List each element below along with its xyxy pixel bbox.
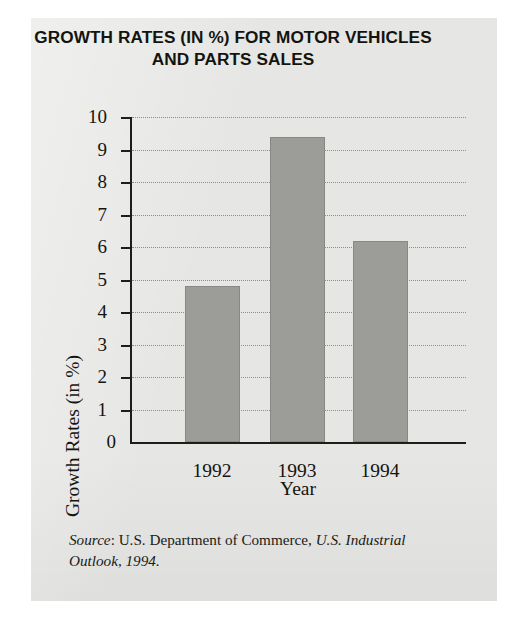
y-tick-label-9: 9 (98, 138, 108, 160)
y-tick-6: 6 (121, 247, 132, 249)
y-axis-title-wrapper: Growth Rates (in %) (66, 148, 92, 434)
y-tick-4: 4 (121, 312, 132, 314)
y-tick-3: 3 (121, 345, 132, 347)
chart-title-line-2: AND PARTS SALES (34, 48, 432, 70)
figure-root: GROWTH RATES (IN %) FOR MOTOR VEHICLES A… (0, 0, 524, 619)
y-tick-9: 9 (121, 150, 132, 152)
y-tick-label-7: 7 (98, 203, 108, 225)
x-axis-title: Year (130, 478, 466, 500)
y-tick-label-4: 4 (98, 301, 108, 323)
y-tick-7: 7 (121, 215, 132, 217)
y-tick-5: 5 (121, 280, 132, 282)
source-publisher: U.S. Department of Commerce, (119, 531, 316, 548)
gridline-10 (132, 117, 466, 119)
y-tick-label-5: 5 (98, 268, 108, 290)
source-note: Source: U.S. Department of Commerce, U.S… (69, 529, 447, 571)
plot-area: 10 9 8 7 6 5 4 3 2 1 0 (130, 117, 466, 442)
y-tick-label-3: 3 (98, 333, 108, 355)
y-tick-label-6: 6 (98, 236, 108, 258)
y-tick-label-10: 10 (88, 106, 107, 128)
y-tick-1: 1 (121, 410, 132, 412)
source-separator: : (111, 531, 119, 548)
bar-1992 (185, 286, 240, 442)
source-label: Source (69, 531, 111, 548)
y-tick-label-1: 1 (98, 398, 108, 420)
chart-title: GROWTH RATES (IN %) FOR MOTOR VEHICLES A… (34, 26, 432, 70)
y-tick-2: 2 (121, 377, 132, 379)
x-axis-line (130, 442, 466, 444)
y-tick-label-0: 0 (107, 431, 117, 453)
y-tick-label-8: 8 (98, 171, 108, 193)
y-tick-label-2: 2 (98, 366, 108, 388)
bar-1994 (353, 241, 408, 443)
y-tick-10: 10 (121, 117, 132, 119)
bar-1993 (270, 137, 325, 443)
y-tick-8: 8 (121, 182, 132, 184)
chart-title-line-1: GROWTH RATES (IN %) FOR MOTOR VEHICLES (34, 27, 432, 47)
